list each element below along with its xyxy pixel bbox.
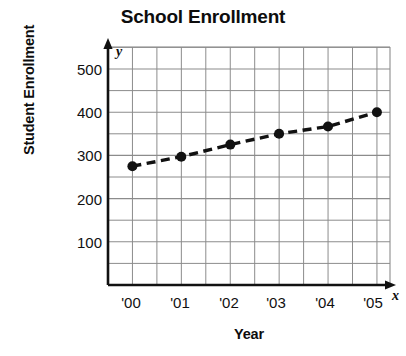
data-point-01 (176, 152, 186, 162)
data-point-04 (323, 122, 333, 132)
plot-area (0, 0, 406, 356)
data-point-00 (127, 161, 137, 171)
chart-container: School Enrollment Student Enrollment Yea… (0, 0, 406, 356)
grid-lines (108, 47, 390, 285)
data-point-02 (225, 140, 235, 150)
data-point-05 (372, 107, 382, 117)
data-point-03 (274, 129, 284, 139)
